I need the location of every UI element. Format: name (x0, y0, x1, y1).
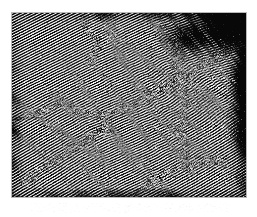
scan-noise-band (30, 203, 230, 213)
micrograph-image (12, 13, 246, 197)
micrograph-frame (11, 12, 247, 198)
figure-root (0, 0, 257, 217)
